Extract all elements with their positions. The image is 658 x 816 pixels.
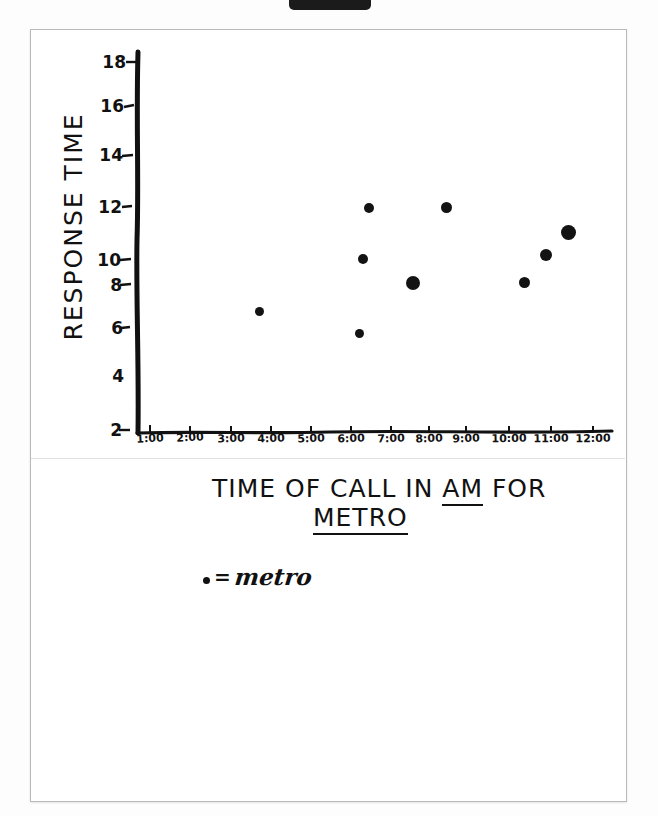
y-tick-label-2: 2 bbox=[88, 420, 122, 440]
data-point bbox=[406, 276, 420, 290]
y-tick-label-18: 18 bbox=[92, 52, 126, 72]
legend-label-metro: metro bbox=[233, 563, 313, 590]
data-point bbox=[441, 202, 452, 213]
y-tick-label-12: 12 bbox=[88, 197, 122, 217]
x-axis-caption-am: AM bbox=[442, 474, 483, 506]
x-tick-label-10: 10:00 bbox=[486, 432, 532, 446]
data-point bbox=[540, 249, 552, 261]
scatter-chart: RESPONSE TIME 18 16 14 12 10 8 6 4 2 1:0… bbox=[0, 0, 658, 816]
y-tick-label-16: 16 bbox=[90, 96, 124, 116]
x-axis-caption-text: TIME OF CALL IN bbox=[212, 474, 433, 503]
y-axis-title: RESPONSE TIME bbox=[59, 112, 88, 342]
y-tick-label-10: 10 bbox=[87, 250, 121, 270]
y-tick-label-14: 14 bbox=[89, 145, 123, 165]
data-point bbox=[355, 329, 364, 338]
x-tick-label-12: 12:00 bbox=[570, 432, 616, 446]
data-point bbox=[358, 254, 368, 264]
legend-dot-icon bbox=[203, 577, 210, 584]
data-point bbox=[519, 277, 530, 288]
data-point bbox=[364, 203, 374, 213]
x-axis-caption-for: FOR bbox=[492, 474, 546, 503]
data-point bbox=[255, 307, 264, 316]
scanned-page: RESPONSE TIME 18 16 14 12 10 8 6 4 2 1:0… bbox=[0, 0, 658, 816]
x-axis-caption-line1: TIME OF CALL IN AM FOR bbox=[212, 474, 546, 503]
x-tick-label-9: 9:00 bbox=[443, 431, 489, 446]
x-tick-label-11: 11:00 bbox=[528, 432, 574, 446]
legend-equals-sign: = bbox=[214, 565, 231, 589]
x-axis-caption-metro: METRO bbox=[313, 503, 408, 535]
y-tick-label-4: 4 bbox=[90, 366, 124, 386]
x-tick-label-2: 2:00 bbox=[167, 430, 214, 445]
chart-legend: = metro bbox=[203, 563, 312, 590]
hand-drawn-axes bbox=[0, 0, 658, 816]
data-point bbox=[561, 225, 576, 240]
y-tick-label-8: 8 bbox=[88, 275, 122, 295]
x-axis-caption-line2: METRO bbox=[313, 503, 408, 532]
y-tick-label-6: 6 bbox=[89, 318, 123, 338]
